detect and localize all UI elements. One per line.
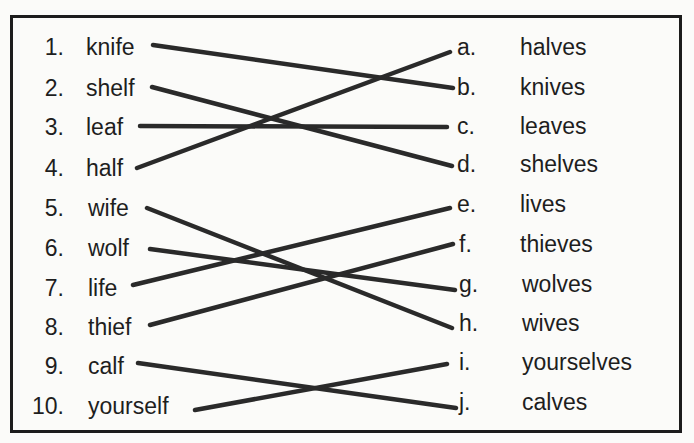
match-line-4-a <box>137 52 450 168</box>
match-line-3-c <box>140 126 447 127</box>
matching-lines <box>0 0 694 443</box>
